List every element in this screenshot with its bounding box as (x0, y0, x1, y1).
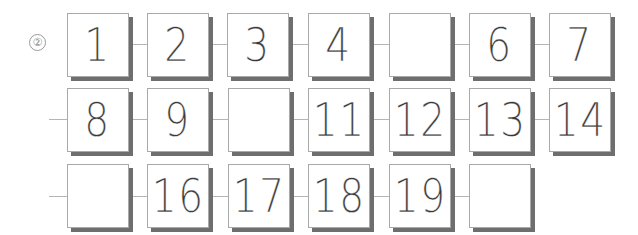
blank-number-box[interactable] (469, 164, 531, 228)
number-value: 2 (165, 22, 192, 68)
number-box: 9 (147, 88, 209, 152)
number-value: 1 (85, 22, 112, 68)
number-value: 4 (326, 22, 353, 68)
number-box: 7 (549, 13, 611, 77)
number-box: 3 (227, 13, 289, 77)
number-box: 13 (469, 88, 531, 152)
number-row-1: 1 2 3 4 6 7 (0, 13, 638, 79)
number-row-3: 16 17 18 19 (0, 164, 638, 230)
number-box: 14 (549, 88, 611, 152)
number-row-2: 8 9 11 12 13 14 (0, 88, 638, 154)
number-box: 12 (389, 88, 451, 152)
blank-number-box[interactable] (67, 164, 129, 228)
number-value: 17 (232, 173, 285, 219)
number-value: 18 (312, 173, 365, 219)
number-value: 3 (245, 22, 272, 68)
number-value: 16 (151, 173, 204, 219)
number-box: 17 (228, 164, 290, 228)
number-box: 18 (308, 164, 370, 228)
blank-number-box[interactable] (228, 88, 290, 152)
number-value: 14 (553, 97, 606, 143)
number-box: 16 (147, 164, 209, 228)
number-value: 6 (487, 22, 514, 68)
blank-number-box[interactable] (389, 13, 451, 77)
number-box: 11 (308, 88, 370, 152)
number-box: 19 (389, 164, 451, 228)
number-box: 8 (67, 88, 129, 152)
number-box: 6 (469, 13, 531, 77)
number-box: 1 (67, 13, 129, 77)
number-value: 13 (473, 97, 526, 143)
number-box: 2 (147, 13, 209, 77)
number-box: 4 (308, 13, 370, 77)
number-value: 9 (165, 97, 192, 143)
number-value: 8 (85, 97, 112, 143)
number-value: 12 (393, 97, 446, 143)
number-value: 11 (312, 97, 365, 143)
number-value: 19 (393, 173, 446, 219)
number-value: 7 (567, 22, 594, 68)
